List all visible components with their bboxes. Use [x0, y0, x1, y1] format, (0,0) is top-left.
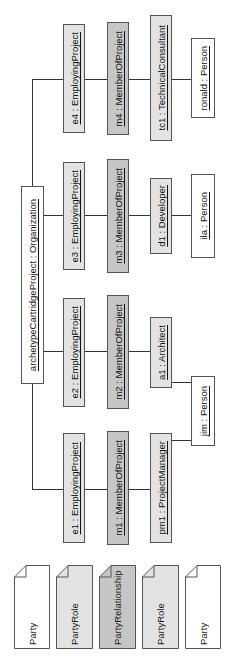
connector-m2-a1: [128, 351, 150, 352]
legend-label: Party: [14, 579, 50, 645]
person-label: ronald : Person: [198, 46, 209, 110]
connector-pm1-jim: [171, 440, 191, 441]
uml-object-diagram: archetypeCartridgeProject : Organization…: [0, 0, 235, 661]
role-label: d1 : Developer: [156, 185, 167, 247]
legend-label: PartyRelationship: [99, 579, 136, 645]
connector-e2-m2: [85, 351, 107, 352]
legend-note-party-relationship: PartyRelationship: [99, 565, 136, 649]
role-label: a1 : Architect: [156, 325, 167, 380]
role-a1: a1 : Architect: [150, 317, 172, 388]
connector-org-e1: [32, 489, 63, 490]
connector-org-e4: [32, 79, 63, 80]
role-tc1: tc1 : TechnicalConsultant: [150, 15, 172, 141]
role-d1: d1 : Developer: [150, 178, 172, 254]
employing-project-e1: e1 : EmployingProject: [63, 433, 85, 543]
member-of-project-label: m1 : MemberOfProject: [113, 440, 124, 536]
connector-m4-tc1: [128, 79, 150, 80]
employing-project-label: e3 : EmployingProject: [69, 170, 80, 262]
employing-project-e4: e4 : EmployingProject: [63, 24, 85, 133]
member-of-project-m4: m4 : MemberOfProject: [107, 22, 129, 135]
legend-note-party: Party: [14, 565, 50, 649]
member-of-project-label: m3 : MemberOfProject: [113, 168, 124, 264]
connector-d1-ila: [171, 215, 191, 216]
employing-project-label: e2 : EmployingProject: [69, 306, 80, 398]
role-label: pm1 : ProjectManager: [156, 441, 167, 534]
legend-label: PartyRole: [56, 579, 93, 645]
connector-e4-m4: [85, 79, 107, 80]
member-of-project-m3: m3 : MemberOfProject: [107, 159, 129, 273]
employing-project-e3: e3 : EmployingProject: [63, 162, 85, 270]
person-ronald: ronald : Person: [191, 38, 215, 118]
person-label: ila : Person: [198, 192, 209, 240]
connector-e1-m1: [85, 489, 107, 490]
legend-note-party-role-2: PartyRole: [142, 565, 179, 649]
legend-note-party-2: Party: [185, 565, 221, 649]
legend-label: PartyRole: [142, 579, 179, 645]
legend-label: Party: [185, 579, 221, 645]
member-of-project-label: m4 : MemberOfProject: [113, 31, 124, 127]
member-of-project-m2: m2 : MemberOfProject: [107, 295, 129, 409]
employing-project-e2: e2 : EmployingProject: [63, 298, 85, 407]
connector-e3-m3: [85, 215, 107, 216]
employing-project-label: e4 : EmployingProject: [69, 32, 80, 124]
member-of-project-label: m2 : MemberOfProject: [113, 304, 124, 400]
organization-object: archetypeCartridgeProject : Organization: [21, 186, 44, 384]
legend-note-party-role: PartyRole: [56, 565, 93, 649]
connector-tc1-ronald: [171, 79, 191, 80]
member-of-project-m1: m1 : MemberOfProject: [107, 431, 129, 545]
connector-m1-pm1: [128, 489, 150, 490]
person-label: jim : Person: [198, 386, 209, 436]
connector-m3-d1: [128, 215, 150, 216]
role-label: tc1 : TechnicalConsultant: [156, 25, 167, 130]
person-jim: jim : Person: [191, 376, 215, 446]
person-ila: ila : Person: [191, 174, 215, 258]
employing-project-label: e1 : EmployingProject: [69, 442, 80, 534]
role-pm1: pm1 : ProjectManager: [150, 433, 172, 543]
connector-org-e3: [43, 215, 63, 216]
organization-label: archetypeCartridgeProject : Organization: [27, 199, 38, 371]
connector-a1-jim: [171, 382, 191, 383]
connector-org-e2: [43, 351, 63, 352]
